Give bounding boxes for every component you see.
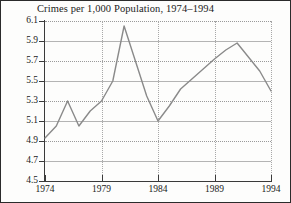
x-tick-label: 1989: [205, 184, 224, 194]
x-tick-label: 1974: [36, 184, 55, 194]
y-tick-label: 5.7: [4, 55, 38, 65]
x-tick-1979: [102, 175, 103, 182]
gridline-x-1994: [271, 21, 272, 181]
y-tick-label: 5.9: [4, 35, 38, 45]
y-tick-5.7: [39, 61, 45, 62]
plot-area: [45, 21, 271, 181]
gridline-x-1989: [215, 21, 216, 181]
y-tick-4.9: [39, 141, 45, 142]
x-tick-1984: [158, 175, 159, 182]
y-tick-label: 4.5: [4, 175, 38, 185]
y-tick-5.5: [39, 81, 45, 82]
x-tick-label: 1979: [92, 184, 111, 194]
y-tick-5.9: [39, 41, 45, 42]
y-tick-label: 5.1: [4, 115, 38, 125]
gridline-x-1979: [102, 21, 103, 181]
y-tick-4.7: [39, 161, 45, 162]
x-tick-1994: [271, 175, 272, 182]
y-tick-label: 6.1: [4, 15, 38, 25]
y-tick-5.1: [39, 121, 45, 122]
chart-figure: Crimes per 1,000 Population, 1974–1994 6…: [0, 0, 291, 203]
y-tick-label: 5.3: [4, 95, 38, 105]
gridline-x-1984: [158, 21, 159, 181]
x-tick-label: 1984: [149, 184, 168, 194]
x-tick-label: 1994: [262, 184, 281, 194]
y-tick-label: 4.9: [4, 135, 38, 145]
chart-title: Crimes per 1,000 Population, 1974–1994: [37, 3, 214, 14]
y-tick-label: 4.7: [4, 155, 38, 165]
y-tick-5.3: [39, 101, 45, 102]
x-tick-1974: [45, 175, 46, 182]
y-axis-labels: 6.15.95.75.55.35.14.94.74.5: [1, 1, 38, 203]
x-tick-1989: [215, 175, 216, 182]
y-tick-6.1: [39, 21, 45, 22]
y-tick-label: 5.5: [4, 75, 38, 85]
